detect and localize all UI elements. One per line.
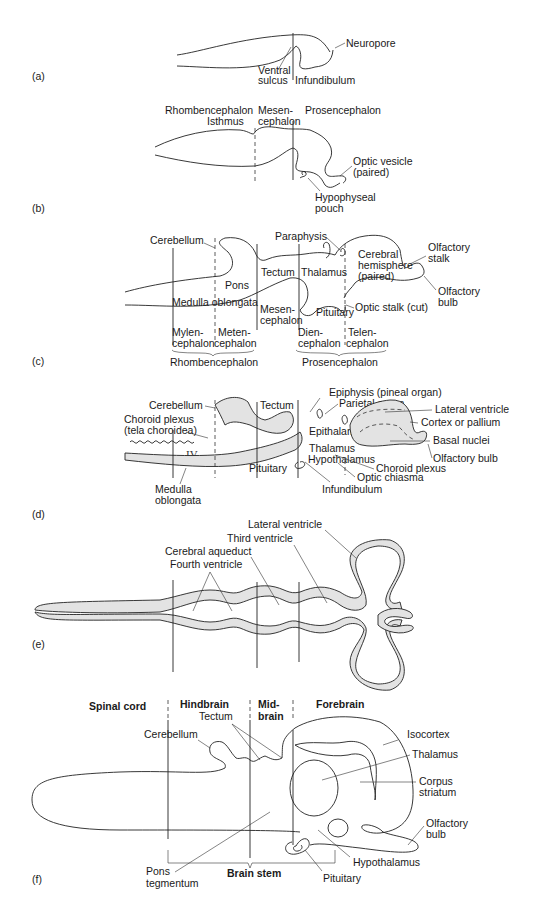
label-cerebellum-f: Cerebellum <box>144 728 198 740</box>
panel-d-tag: (d) <box>32 508 45 520</box>
label-metencephalon-2: cephalon <box>214 337 257 349</box>
panel-c-tag: (c) <box>32 355 44 367</box>
panel-b-tag: (b) <box>32 202 45 214</box>
label-diencephalon-2: cephalon <box>298 337 341 349</box>
panel-f-thalamus <box>290 760 338 816</box>
label-infundibulum-a: Infundibulum <box>295 74 355 86</box>
label-thalamus-f: Thalamus <box>412 748 458 760</box>
panel-c: (c) Cerebellum Paraphysis Olfactory stal… <box>32 230 481 368</box>
panel-e: (e) Lateral ventricle Third ventricle Ce… <box>32 518 413 690</box>
panel-d: (d) Epiphysis (pineal organ) Cerebellum … <box>32 386 509 520</box>
label-prosencephalon-c: Prosencephalon <box>302 356 378 368</box>
header-midbrain-1: Mid- <box>258 698 280 710</box>
label-medulla-d-2: oblongata <box>155 494 201 506</box>
brain-development-diagram: (a) Neuropore Ventral sulcus Infundibulu… <box>0 0 533 905</box>
label-olfactory-bulb-c-2: bulb <box>438 296 458 308</box>
label-rhombencephalon-c: Rhombencephalon <box>170 356 258 368</box>
label-optic-chiasma: Optic chiasma <box>357 471 424 483</box>
label-brain-stem: Brain stem <box>227 867 281 879</box>
header-spinal-cord: Spinal cord <box>89 700 146 712</box>
label-cerebral-aqueduct: Cerebral aqueduct <box>165 545 251 557</box>
panel-f-outline <box>32 717 418 852</box>
label-pons-2: tegmentum <box>146 877 199 889</box>
label-lateral-ventricle-d: Lateral ventricle <box>435 403 509 415</box>
label-hypophyseal-2: pouch <box>315 202 344 214</box>
label-cerebellum-d: Cerebellum <box>149 399 203 411</box>
panel-b-ventral-outline <box>155 148 340 187</box>
label-tectum-c: Tectum <box>261 266 295 278</box>
label-infundibulum-d: Infundibulum <box>322 483 382 495</box>
label-corpus-striatum-2: striatum <box>419 786 457 798</box>
panel-a-tag: (a) <box>32 70 45 82</box>
label-myelencephalon-2: cephalon <box>172 337 215 349</box>
panel-e-tube-lower <box>35 612 404 690</box>
label-tectum-f: Tectum <box>199 710 233 722</box>
header-hindbrain: Hindbrain <box>180 698 229 710</box>
panel-b: (b) Rhombencephalon Isthmus Mesen- cepha… <box>32 104 413 214</box>
label-hypothalamus-f: Hypothalamus <box>353 856 420 868</box>
label-choroid-plexus-d-2: (tela choroidea) <box>124 424 197 436</box>
label-pons: Pons <box>225 279 249 291</box>
label-cortex: Cortex or pallium <box>421 416 501 428</box>
label-mesencephalon-c-2: cephalon <box>260 314 303 326</box>
panel-a-dorsal-outline <box>177 35 330 55</box>
label-tectum-d: Tectum <box>260 399 294 411</box>
label-pituitary-d: Pituitary <box>249 462 288 474</box>
panel-f: (f) Spinal cord Hindbrain Mid- brain For… <box>32 698 469 889</box>
panel-f-tag: (f) <box>32 873 42 885</box>
label-telencephalon-2: cephalon <box>346 337 389 349</box>
label-isocortex: Isocortex <box>407 728 450 740</box>
label-cerebral-hemisphere-3: (paired) <box>358 270 394 282</box>
label-optic-stalk: Optic stalk (cut) <box>355 301 428 313</box>
label-isthmus: Isthmus <box>207 115 244 127</box>
label-third-ventricle: Third ventricle <box>227 532 293 544</box>
label-pituitary-f: Pituitary <box>323 872 362 884</box>
panel-a-ventral-outline <box>177 46 333 69</box>
label-ventral-sulcus-2: sulcus <box>258 74 288 86</box>
label-pons-1: Pons <box>146 865 170 877</box>
brace-brain-stem <box>168 850 335 868</box>
label-basal-nuclei: Basal nuclei <box>433 434 490 446</box>
label-paraphysis: Paraphysis <box>275 230 327 242</box>
label-optic-vesicle-2: (paired) <box>353 166 389 178</box>
label-olfactory-bulb-f-2: bulb <box>426 828 446 840</box>
label-thalamus-c: Thalamus <box>301 266 347 278</box>
label-cerebellum-c: Cerebellum <box>150 234 204 246</box>
label-mesencephalon-b-2: cephalon <box>258 115 301 127</box>
label-neuropore: Neuropore <box>346 37 396 49</box>
label-lateral-ventricle-e: Lateral ventricle <box>248 518 322 530</box>
label-hypothalamus-d: Hypothalamus <box>308 453 375 465</box>
header-midbrain-2: brain <box>258 710 284 722</box>
label-prosencephalon-b: Prosencephalon <box>305 104 381 116</box>
label-fourth-ventricle: Fourth ventricle <box>170 558 243 570</box>
header-forebrain: Forebrain <box>316 698 364 710</box>
label-olfactory-stalk-2: stalk <box>428 252 450 264</box>
panel-e-tag: (e) <box>32 638 45 650</box>
panel-a: (a) Neuropore Ventral sulcus Infundibulu… <box>32 33 396 86</box>
